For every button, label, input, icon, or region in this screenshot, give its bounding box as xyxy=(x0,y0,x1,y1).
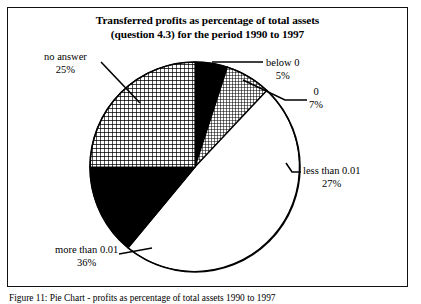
slice-label-more-than-name: more than 0.01 xyxy=(55,244,118,257)
slice-label-less-than-value: 27% xyxy=(303,178,360,191)
slice-label-zero-name: 0 xyxy=(309,86,323,99)
chart-title-line-2: (question 4.3) for the period 1990 to 19… xyxy=(7,27,408,41)
slice-label-more-than: more than 0.01 36% xyxy=(55,244,118,269)
slice-label-less-than: less than 0.01 27% xyxy=(303,165,360,190)
slice-label-below-0-value: 5% xyxy=(266,70,300,83)
slice-label-below-0-name: below 0 xyxy=(266,57,300,70)
slice-label-no-answer-value: 25% xyxy=(44,64,87,77)
chart-title-line-1: Transferred profits as percentage of tot… xyxy=(7,13,408,27)
pie-slice-no-answer xyxy=(90,62,195,167)
slice-label-zero: 0 7% xyxy=(309,86,323,111)
slice-label-zero-value: 7% xyxy=(309,99,323,112)
pie-svg xyxy=(88,60,302,274)
chart-title: Transferred profits as percentage of tot… xyxy=(7,13,408,41)
slice-label-less-than-name: less than 0.01 xyxy=(303,165,360,178)
slice-label-no-answer-name: no answer xyxy=(44,51,87,64)
figure-caption: Figure 11: Pie Chart - profits as percen… xyxy=(9,293,421,304)
slice-label-no-answer: no answer 25% xyxy=(44,51,87,76)
slice-label-more-than-value: 36% xyxy=(55,257,118,270)
pie-chart xyxy=(88,60,302,274)
slice-label-below-0: below 0 5% xyxy=(266,57,300,82)
